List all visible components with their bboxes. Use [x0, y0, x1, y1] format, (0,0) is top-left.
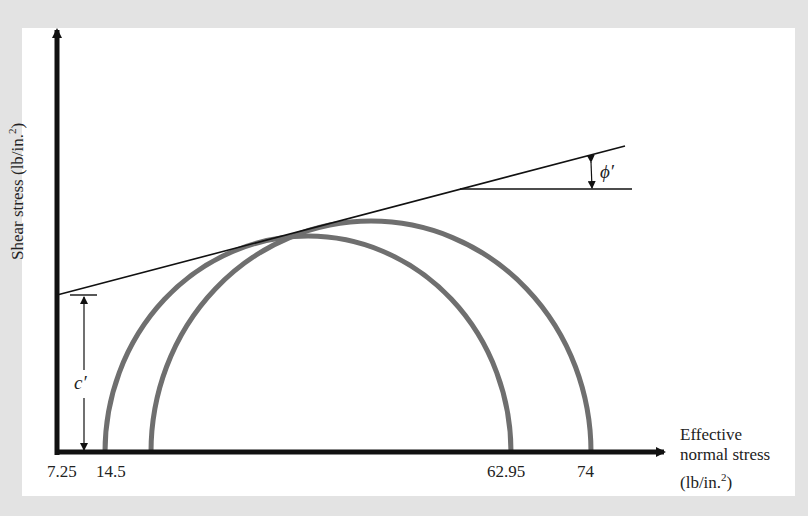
- x-axis-label-line2: normal stress: [680, 445, 770, 465]
- friction-angle-label: ϕ′: [600, 162, 614, 182]
- tick-label-62-95: 62.95: [487, 462, 525, 482]
- mohr-circle-2: [151, 221, 591, 452]
- tick-label-7-25: 7.25: [47, 462, 77, 482]
- failure-envelope: [57, 146, 625, 295]
- cohesion-label: c′: [74, 373, 87, 393]
- x-axis-label-line3: (lb/in.2): [680, 467, 732, 493]
- x-axis-label-line1: Effective: [680, 425, 742, 445]
- tick-label-74: 74: [577, 462, 594, 482]
- y-axis-label: Shear stress (lb/in.2): [6, 123, 28, 260]
- phi-arrow: [591, 162, 592, 188]
- mohr-circle-1: [105, 236, 511, 452]
- tick-label-14-5: 14.5: [96, 462, 126, 482]
